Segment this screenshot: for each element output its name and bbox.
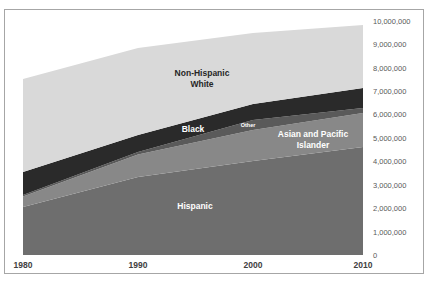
y-tick-9m: 9,000,000 bbox=[373, 40, 406, 49]
y-tick-2m: 2,000,000 bbox=[373, 204, 406, 213]
y-tick-1m: 1,000,000 bbox=[373, 228, 406, 237]
label-other: Other bbox=[241, 122, 257, 128]
label-non-hispanic-white: Non-Hispanic bbox=[175, 68, 230, 78]
label-non-hispanic-white-line2: White bbox=[190, 79, 213, 89]
y-tick-5m: 5,000,000 bbox=[373, 134, 406, 143]
y-tick-6m: 6,000,000 bbox=[373, 110, 406, 119]
y-tick-4m: 4,000,000 bbox=[373, 157, 406, 166]
x-tick-1980: 1980 bbox=[14, 260, 33, 270]
y-tick-8m: 8,000,000 bbox=[373, 64, 406, 73]
label-asian-pacific: Asian and Pacific bbox=[278, 129, 349, 139]
x-tick-1990: 1990 bbox=[129, 260, 148, 270]
label-hispanic: Hispanic bbox=[177, 201, 213, 211]
x-tick-2000: 2000 bbox=[244, 260, 263, 270]
y-tick-0: 0 bbox=[373, 251, 377, 260]
y-tick-10m: 10,000,000 bbox=[373, 17, 411, 26]
label-black: Black bbox=[182, 124, 205, 134]
y-tick-3m: 3,000,000 bbox=[373, 181, 406, 190]
label-asian-pacific-line2: Islander bbox=[297, 140, 330, 150]
y-axis-labels: 10,000,000 9,000,000 8,000,000 7,000,000… bbox=[373, 17, 411, 260]
x-tick-2010: 2010 bbox=[354, 260, 373, 270]
y-tick-7m: 7,000,000 bbox=[373, 87, 406, 96]
x-axis-labels: 1980 1990 2000 2010 bbox=[14, 260, 373, 270]
